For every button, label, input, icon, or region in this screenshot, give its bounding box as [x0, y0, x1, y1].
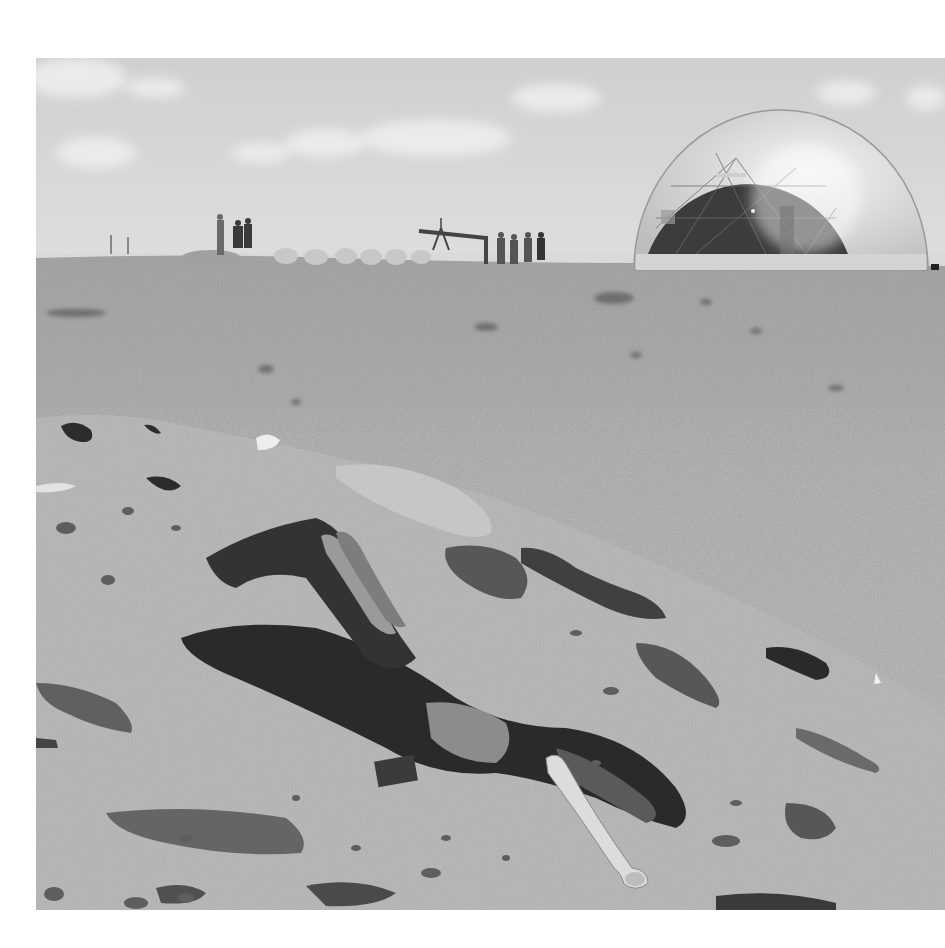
photograph — [36, 58, 945, 910]
scene — [36, 58, 945, 910]
